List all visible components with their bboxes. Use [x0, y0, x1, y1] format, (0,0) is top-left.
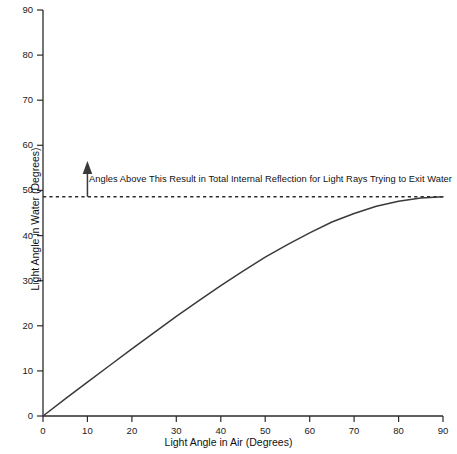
y-tick-label-10: 10	[12, 366, 33, 376]
x-tick-label-80: 80	[393, 426, 404, 436]
y-tick-label-80: 80	[12, 50, 33, 60]
x-tick-label-70: 70	[349, 426, 360, 436]
x-tick-label-40: 40	[216, 426, 227, 436]
x-axis-title: Light Angle in Air (Degrees)	[0, 436, 457, 448]
plot-canvas	[0, 0, 457, 454]
y-tick-label-70: 70	[12, 95, 33, 105]
x-tick-label-90: 90	[438, 426, 449, 436]
refraction-curve	[43, 197, 443, 416]
x-tick-marks	[43, 416, 443, 422]
x-tick-label-10: 10	[82, 426, 93, 436]
y-axis-title: Light Angle in Water (Degrees)	[29, 129, 41, 309]
refraction-chart: 0 10 20 30 40 50 60 70 80 90 0 10 20 30 …	[0, 0, 457, 454]
y-tick-label-20: 20	[12, 321, 33, 331]
x-tick-label-30: 30	[171, 426, 182, 436]
x-tick-label-20: 20	[127, 426, 138, 436]
y-tick-label-0: 0	[12, 411, 33, 421]
x-tick-label-60: 60	[304, 426, 315, 436]
x-tick-label-50: 50	[260, 426, 271, 436]
x-tick-label-0: 0	[40, 426, 45, 436]
y-tick-label-90: 90	[12, 5, 33, 15]
total-internal-reflection-annotation: Angles Above This Result in Total Intern…	[89, 174, 452, 184]
